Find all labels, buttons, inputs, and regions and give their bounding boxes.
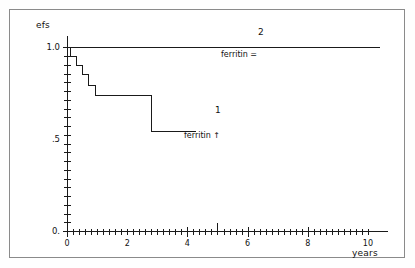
survival-curve-1 <box>67 47 196 131</box>
figure-container: efs years 1.0.50.0246810 2 ferritin = 1 … <box>0 0 415 268</box>
curves-layer <box>67 47 380 131</box>
curve-1-group-label: ferritin ↑ <box>184 131 220 140</box>
x-tick-label: 0 <box>55 239 79 248</box>
y-tick-label: 0. <box>36 226 60 236</box>
y-tick-label: 1.0 <box>36 42 60 52</box>
curve-1-number: 1 <box>215 105 221 115</box>
axes-layer <box>63 36 389 237</box>
x-tick-label: 10 <box>356 239 380 248</box>
x-tick-label: 8 <box>296 239 320 248</box>
curve-2-group-label: ferritin = <box>221 50 257 59</box>
curve-2-number: 2 <box>258 27 264 37</box>
x-tick-label: 2 <box>115 239 139 248</box>
y-tick-label: .5 <box>36 134 60 144</box>
x-tick-label: 6 <box>236 239 260 248</box>
x-tick-label: 4 <box>175 239 199 248</box>
